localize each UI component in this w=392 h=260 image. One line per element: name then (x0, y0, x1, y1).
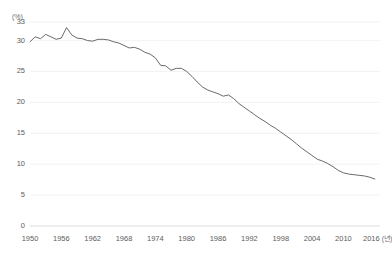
y-axis-tick-10: 10 (17, 160, 25, 168)
x-axis-tick-1980: 1980 (178, 234, 195, 243)
x-axis-tick-1956: 1956 (53, 234, 70, 243)
x-axis-tick-1968: 1968 (116, 234, 133, 243)
x-axis-tick-1950: 1950 (22, 234, 39, 243)
y-axis-tick-20: 20 (17, 98, 25, 106)
y-axis-tick-5: 5 (21, 191, 25, 199)
y-axis-tick-25: 25 (17, 67, 25, 75)
data-line-layer (30, 22, 380, 226)
y-axis-tick-0: 0 (21, 222, 25, 230)
x-axis-tick-labels: 1950195619621968197419801986199219982004… (0, 234, 391, 248)
x-axis-tick-1974: 1974 (147, 234, 164, 243)
y-axis-tick-15: 15 (17, 129, 25, 137)
x-axis-tick-2016: 2016 (년) (363, 234, 392, 243)
x-axis-unit-label: (년) (382, 235, 392, 242)
y-axis-tick-33: 33 (17, 18, 25, 26)
y-axis-tick-labels: 33302520151050 (0, 0, 30, 260)
x-axis-tick-1998: 1998 (272, 234, 289, 243)
y-axis-tick-30: 30 (17, 37, 25, 45)
series-1-line (30, 28, 375, 179)
x-axis-tick-1986: 1986 (210, 234, 227, 243)
x-axis-tick-1962: 1962 (84, 234, 101, 243)
x-axis-tick-1992: 1992 (241, 234, 258, 243)
plot-area (30, 22, 380, 226)
x-axis-tick-2004: 2004 (304, 234, 321, 243)
x-axis-tick-2010: 2010 (335, 234, 352, 243)
